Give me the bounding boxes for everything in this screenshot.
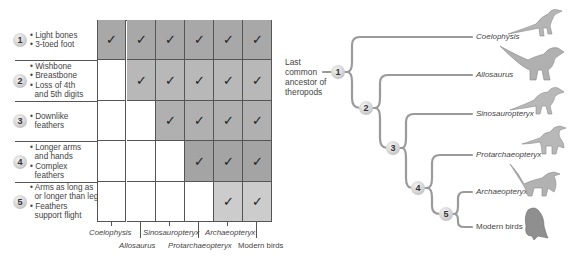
tree-node-2: 2 [359,101,373,115]
allosaurus-icon [498,42,570,82]
coelophysis-icon [506,4,568,40]
protarchaeopteryx-icon [520,122,572,158]
tree-node-5: 5 [439,207,453,221]
tree-node-4: 4 [411,181,425,195]
sinosauropteryx-icon [508,82,570,118]
archaeopteryx-icon [508,162,564,202]
modern-bird-icon [520,206,550,242]
leaf-modern-birds: Modern birds [476,222,523,231]
tree-node-1: 1 [331,65,345,79]
tree-node-3: 3 [386,141,400,155]
